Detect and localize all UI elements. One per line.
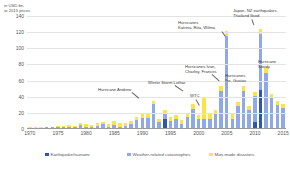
y-tick-label-20: 20 <box>0 110 24 116</box>
annotation-hurricanes-katrina-rita-wilma: Hurricanes Katrina, Rita, Wilma <box>178 20 215 30</box>
x-tick-label-2000: 2000 <box>193 130 204 136</box>
bar-stack-2014 <box>276 101 279 129</box>
bar-stack-2000 <box>197 115 200 129</box>
annotation-hurricanes-ike-gustav: Hurricanes Ike, Gustav <box>225 73 246 83</box>
y-tick-label-140: 140 <box>0 13 24 19</box>
x-tick-label-1990: 1990 <box>137 130 148 136</box>
gridline-80 <box>27 64 286 65</box>
bar-segment-2001-man-made-disasters <box>202 98 205 119</box>
gridline-120 <box>27 32 286 33</box>
annotation-winter-storm-lothar: Winter Storm Lothar <box>148 80 185 85</box>
gridline-20 <box>27 113 286 114</box>
bar-segment-1999-weather-related-catastrophes <box>191 109 194 129</box>
annotation-hurricane-andrew: Hurricane Andrew <box>98 87 131 92</box>
x-axis: 1970197519801985199019952000200520102015 <box>27 130 286 139</box>
bar-stack-1991 <box>146 114 149 129</box>
legend-label-man-made: Man-made disasters <box>215 152 255 157</box>
x-tick-label-2005: 2005 <box>221 130 232 136</box>
annotation-hurricanes-ivan-charley-frances: Hurricanes Ivan, Charley, Frances <box>185 64 217 74</box>
gridline-100 <box>27 48 286 49</box>
bar-stack-2008 <box>242 86 245 129</box>
axis-baseline <box>27 128 286 129</box>
bar-stack-1992 <box>152 101 155 129</box>
bar-segment-2010-weather-related-catastrophes <box>253 96 256 122</box>
x-tick-label-1970: 1970 <box>24 130 35 136</box>
bar-segment-2003-weather-related-catastrophes <box>214 114 217 129</box>
gridline-40 <box>27 97 286 98</box>
bar-segment-2015-weather-related-catastrophes <box>281 108 284 129</box>
legend-swatch-man-made <box>209 153 213 157</box>
y-axis: 020406080100120140 <box>0 16 24 129</box>
bar-stack-2015 <box>281 104 284 129</box>
bar-segment-2007-weather-related-catastrophes <box>236 106 239 129</box>
y-tick-label-80: 80 <box>0 61 24 67</box>
legend-swatch-earthquake-tsunami <box>45 153 49 157</box>
y-tick-label-40: 40 <box>0 94 24 100</box>
bar-stack-1998 <box>186 113 189 129</box>
y-tick-label-120: 120 <box>0 29 24 35</box>
bar-stack-2009 <box>247 106 250 129</box>
annotation-japan-nz-earthquakes-thailand-flood: Japan, NZ earthquakes, Thailand flood <box>233 8 278 18</box>
bar-segment-2014-weather-related-catastrophes <box>276 105 279 129</box>
bar-stack-1996 <box>174 115 177 129</box>
bar-stack-1990 <box>141 114 144 129</box>
legend-item-earthquake-tsunami[interactable]: Earthquake/tsunami <box>45 152 90 157</box>
legend-item-man-made[interactable]: Man-made disasters <box>209 152 254 157</box>
y-tick-label-0: 0 <box>0 126 24 132</box>
legend-label-earthquake-tsunami: Earthquake/tsunami <box>51 152 90 157</box>
x-tick-label-1985: 1985 <box>109 130 120 136</box>
bar-stack-2012 <box>264 67 267 129</box>
y-axis-caption: in USD bn, at 2015 prices <box>4 3 30 13</box>
annotation-hurricane-sandy: Hurricane Sandy <box>258 59 276 69</box>
x-tick-label-1975: 1975 <box>52 130 63 136</box>
annotation-wtc: WTC <box>190 93 200 98</box>
x-tick-label-1995: 1995 <box>165 130 176 136</box>
bar-stack-2002 <box>208 114 211 129</box>
chart-root: in USD bn, at 2015 prices 02040608010012… <box>0 0 290 170</box>
bar-stack-2006 <box>231 114 234 129</box>
legend: Earthquake/tsunami Weather-related catas… <box>27 152 286 162</box>
bar-stack-2007 <box>236 102 239 129</box>
bar-segment-1989-weather-related-catastrophes <box>135 120 138 128</box>
legend-swatch-weather-related <box>127 153 131 157</box>
bar-stack-1999 <box>191 104 194 129</box>
plot-area <box>27 16 286 129</box>
legend-item-weather-related[interactable]: Weather-related catastrophes <box>127 152 190 157</box>
x-tick-label-2015: 2015 <box>278 130 289 136</box>
bar-stack-2011 <box>259 29 262 129</box>
bar-stack-2004 <box>219 86 222 129</box>
y-tick-label-60: 60 <box>0 78 24 84</box>
y-tick-label-100: 100 <box>0 45 24 51</box>
x-tick-label-2010: 2010 <box>249 130 260 136</box>
legend-label-weather-related: Weather-related catastrophes <box>133 152 191 157</box>
x-tick-label-1980: 1980 <box>81 130 92 136</box>
bar-segment-1992-weather-related-catastrophes <box>152 104 155 129</box>
bar-stack-2013 <box>270 94 273 129</box>
